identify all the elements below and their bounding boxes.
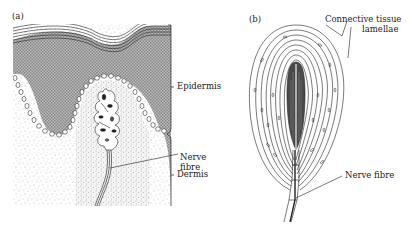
nerve-fibre-b bbox=[284, 150, 299, 222]
inner-core bbox=[287, 62, 305, 150]
label-nerve-fibre-b: Nerve fibre bbox=[345, 171, 394, 180]
diagram-canvas bbox=[0, 0, 409, 232]
label-nerve-fibre-a-line1: Nerve bbox=[180, 153, 206, 162]
panel-a-tag: (a) bbox=[12, 11, 24, 21]
label-epidermis: Epidermis bbox=[177, 82, 221, 91]
label-lamellae: lamellae bbox=[362, 25, 398, 34]
figure: (a) Epidermis Nerve fibre Dermis (b) Con… bbox=[0, 0, 409, 232]
label-connective-tissue: Connective tissue bbox=[325, 15, 401, 24]
panel-a-skin-section bbox=[13, 20, 171, 206]
label-dermis: Dermis bbox=[177, 170, 208, 179]
panel-b-tag: (b) bbox=[249, 14, 261, 24]
